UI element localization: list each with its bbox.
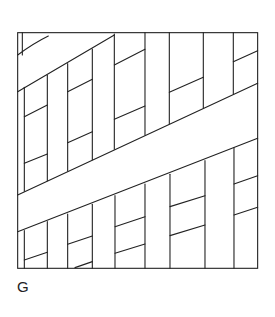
band-line-a [18, 35, 115, 92]
mid-cross [233, 51, 257, 62]
mid-cross [169, 77, 203, 92]
bottom-cross [115, 217, 145, 227]
band-line-b [18, 83, 258, 195]
bottom-cross [234, 207, 258, 215]
bottom-cross [24, 252, 47, 260]
bottom-cross [170, 225, 205, 236]
mid-cross [24, 154, 47, 163]
bottom-cross [234, 176, 258, 184]
bottom-cross [75, 262, 92, 268]
mid-cross [114, 49, 145, 65]
mid-cross [24, 105, 47, 117]
band-line-c [18, 138, 258, 231]
mid-cross [114, 106, 145, 119]
figure-label: G [17, 278, 29, 295]
mid-cross [68, 132, 93, 143]
bottom-cross [68, 236, 93, 244]
frame [18, 33, 258, 269]
bottom-cross [170, 196, 205, 207]
mid-cross [68, 79, 93, 91]
woven-pattern-diagram [0, 0, 275, 317]
bottom-cross [115, 244, 145, 253]
